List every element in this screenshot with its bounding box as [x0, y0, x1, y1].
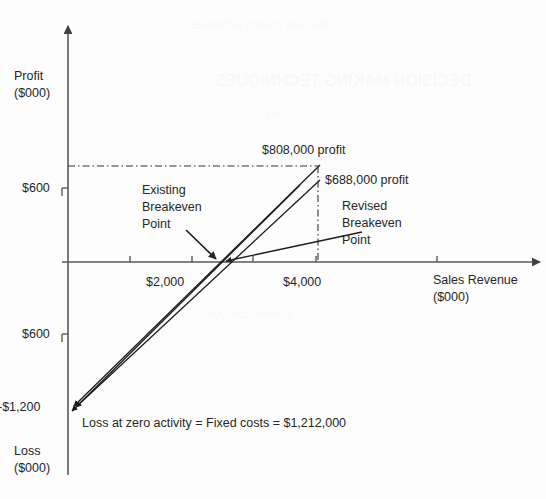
- profit-808-label: $808,000 profit: [262, 142, 345, 159]
- y-axis-title: Profit ($000): [14, 68, 50, 102]
- existing-breakeven-pointer: [186, 230, 216, 259]
- y-axis-loss-title: Loss ($000): [14, 443, 50, 477]
- y-tick-label-minus-1200: -$1,200: [0, 399, 40, 416]
- y-tick-label-600-upper: $600: [22, 180, 50, 197]
- loss-at-zero-activity-label: Loss at zero activity = Fixed costs = $1…: [82, 415, 346, 432]
- x-tick-label-4000: $4,000: [283, 274, 321, 291]
- x-tick-label-2000: $2,000: [146, 274, 184, 291]
- y-axis: [62, 26, 68, 475]
- x-axis: [62, 256, 540, 262]
- y-tick-label-600-lower: $600: [22, 326, 50, 343]
- breakeven-chart: Decision making techniques DECISION MAKI…: [0, 0, 546, 499]
- revised-breakeven-label: Revised Breakeven Point: [342, 198, 402, 249]
- existing-breakeven-label: Existing Breakeven Point: [142, 182, 202, 233]
- profit-688-label: $688,000 profit: [325, 172, 408, 189]
- x-axis-title: Sales Revenue ($000): [433, 272, 518, 306]
